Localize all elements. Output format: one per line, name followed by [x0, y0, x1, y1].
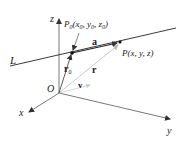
- x-axis: [29, 93, 59, 112]
- vector-v-label: v: [78, 80, 83, 90]
- p0-label: P0(x0, y0, z0): [63, 19, 108, 30]
- x-axis-label: x: [18, 107, 24, 118]
- point-p: [118, 40, 121, 43]
- origin-label: O: [47, 83, 54, 94]
- vector-r-label: r: [92, 64, 97, 75]
- line-L: [10, 28, 176, 66]
- point-p0: [70, 51, 74, 55]
- line-label: L: [9, 54, 16, 66]
- z-axis-label: z: [49, 13, 54, 24]
- vector-line-diagram: z x y O L P0(x0, y0, z0) P(x, y, z) a r0…: [0, 0, 180, 142]
- vector-a-label: a: [92, 36, 97, 47]
- y-axis-label: y: [166, 125, 172, 136]
- p0-leader: [73, 33, 79, 50]
- y-axis: [59, 93, 170, 119]
- p-label: P(x, y, z): [121, 48, 154, 58]
- vector-r0-label: r0: [64, 63, 71, 75]
